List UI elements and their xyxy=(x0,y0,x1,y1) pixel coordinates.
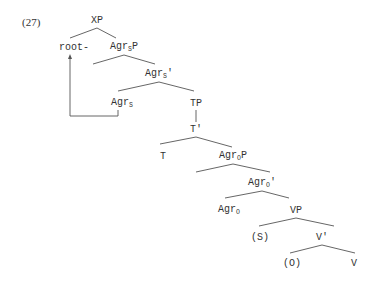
tree-branch xyxy=(97,28,116,38)
node-label: Agr xyxy=(248,177,266,188)
node-label: T xyxy=(160,151,166,162)
tree-branch xyxy=(296,218,334,226)
tree-branch xyxy=(70,28,97,38)
tree-branch xyxy=(93,55,124,64)
tree-branch xyxy=(118,82,159,91)
tree-node-vp: VP xyxy=(290,206,302,216)
node-label: (S) xyxy=(251,232,269,243)
tree-branch xyxy=(233,164,270,172)
tree-node-s: (S) xyxy=(251,233,269,243)
syntax-tree-diagram: (27) XProot-AgrSPAgrS'AgrSTPT'TAgrOPAgrO… xyxy=(0,0,376,282)
node-label: V xyxy=(351,258,357,269)
node-label: (O) xyxy=(283,258,301,269)
node-label: Agr xyxy=(110,41,128,52)
tree-node-agrobar: AgrO' xyxy=(248,178,276,190)
tree-branch xyxy=(196,164,233,172)
node-label: VP xyxy=(290,205,302,216)
node-suffix: ' xyxy=(167,68,173,79)
tree-node-agro: AgrO xyxy=(218,205,240,217)
arrowhead-icon xyxy=(68,54,72,59)
tree-branch xyxy=(159,82,194,91)
node-label: root- xyxy=(59,42,89,53)
tree-node-t: T xyxy=(160,152,166,162)
node-suffix: P xyxy=(132,41,138,52)
tree-branch xyxy=(322,245,355,253)
node-subscript: O xyxy=(236,209,240,216)
node-label: Agr xyxy=(111,97,129,108)
node-label: Agr xyxy=(145,68,163,79)
tree-node-agrsbar: AgrS' xyxy=(145,69,173,81)
tree-branch xyxy=(160,137,196,144)
tree-node-vbar: V' xyxy=(316,233,328,243)
tree-branch xyxy=(259,218,296,226)
node-suffix: P xyxy=(241,150,247,161)
tree-branch xyxy=(225,191,262,198)
tree-branch xyxy=(196,137,232,147)
node-label: T' xyxy=(190,124,202,135)
node-label: Agr xyxy=(218,204,236,215)
node-label: TP xyxy=(190,98,202,109)
tree-node-tbar: T' xyxy=(190,125,202,135)
tree-node-root: root- xyxy=(59,43,89,53)
node-suffix: ' xyxy=(270,177,276,188)
tree-branch xyxy=(262,191,289,198)
tree-node-agrs: AgrS xyxy=(111,98,133,110)
node-subscript: S xyxy=(129,102,133,109)
tree-node-xp: XP xyxy=(91,16,103,26)
tree-branch xyxy=(124,55,155,64)
tree-node-o: (O) xyxy=(283,259,301,269)
tree-node-agrop: AgrOP xyxy=(219,151,247,163)
tree-branch xyxy=(290,245,322,253)
tree-node-agrsp: AgrSP xyxy=(110,42,138,54)
node-label: Agr xyxy=(219,150,237,161)
tree-node-v: V xyxy=(351,259,357,269)
tree-node-tp: TP xyxy=(190,99,202,109)
node-label: V' xyxy=(316,232,328,243)
node-label: XP xyxy=(91,15,103,26)
